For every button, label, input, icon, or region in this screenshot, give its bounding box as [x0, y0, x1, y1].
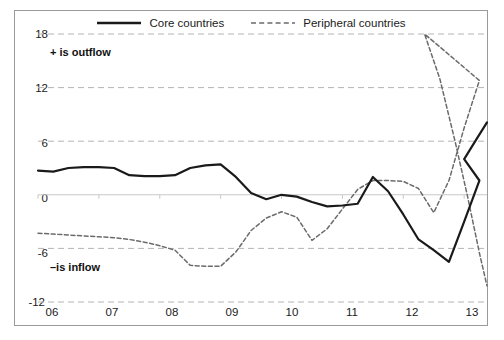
chart-figure: Core countries Peripheral countries 18 1…: [0, 0, 504, 340]
series-line-core: [38, 122, 487, 261]
chart-x-ticks: [38, 195, 464, 199]
chart-plot-area: [0, 0, 504, 340]
